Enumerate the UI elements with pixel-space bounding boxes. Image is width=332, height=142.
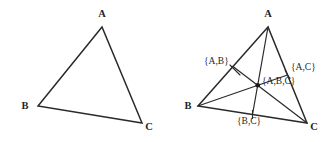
median-from-A-to-BC [253,27,269,115]
vertex-label-A-right: A [264,8,272,19]
set-label-BC: {B,C} [237,116,261,126]
vertex-label-B-right: B [184,100,191,111]
vertex-label-B-left: B [21,100,28,111]
vertex-label-C-right: C [310,121,318,132]
triangle-outline-right [198,27,307,123]
panel-plain-triangle: A B C [21,8,152,132]
set-label-ABC: {A,B,C} [262,76,295,86]
set-label-AC: {A,C} [291,62,316,72]
panel-median-lattice: A B C {A,B} {A,C} {B,C} {A,B,C} [184,8,317,132]
vertex-label-C-left: C [145,121,153,132]
centroid-point [255,83,260,88]
triangle-outline-left [38,27,142,123]
geometry-figure: A B C A B C {A,B} {A,C} {B,C} {A,B,C} [0,0,332,142]
vertex-label-A-left: A [98,8,106,19]
set-label-AB: {A,B} [204,56,229,66]
